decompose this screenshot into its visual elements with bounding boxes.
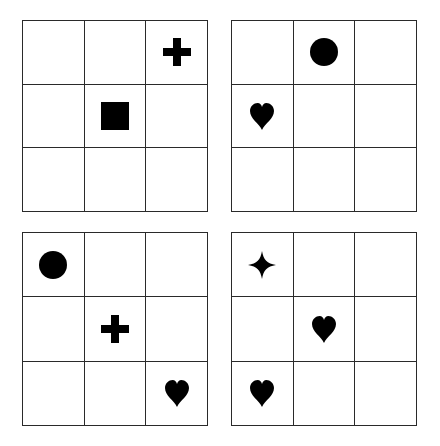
grid-cell-r1-c0 — [232, 85, 294, 149]
grid-cell-r2-c0 — [232, 148, 294, 212]
heart-icon — [247, 101, 277, 131]
grid-cell-r0-c1 — [294, 21, 356, 85]
grid-cell-r0-c0 — [23, 233, 85, 297]
grid-cell-r1-c1 — [85, 85, 147, 149]
grid-cell-r1-c1 — [85, 297, 147, 361]
plus-icon — [162, 37, 192, 67]
grid-cell-r2-c0 — [232, 362, 294, 426]
circle-icon — [38, 250, 68, 280]
grid-cell-r1-c2 — [355, 297, 417, 361]
grid-bottom-right — [231, 232, 417, 426]
grid-cell-r0-c2 — [355, 21, 417, 85]
plus-icon — [100, 314, 130, 344]
grid-cell-r0-c2 — [146, 21, 208, 85]
heart-icon — [247, 378, 277, 408]
grid-cell-r0-c2 — [355, 233, 417, 297]
grid-cell-r1-c2 — [355, 85, 417, 149]
heart-icon — [309, 314, 339, 344]
grid-cell-r1-c2 — [146, 297, 208, 361]
grid-cell-r0-c1 — [294, 233, 356, 297]
grid-cell-r1-c2 — [146, 85, 208, 149]
grid-cell-r2-c2 — [355, 148, 417, 212]
grid-cell-r1-c0 — [232, 297, 294, 361]
grid-cell-r2-c1 — [294, 362, 356, 426]
grid-top-right — [231, 20, 417, 212]
grid-cell-r2-c1 — [294, 148, 356, 212]
grid-top-left — [22, 20, 208, 212]
square-icon — [100, 101, 130, 131]
grid-cell-r2-c1 — [85, 362, 147, 426]
grid-cell-r2-c2 — [146, 362, 208, 426]
grid-cell-r0-c1 — [85, 233, 147, 297]
grid-cell-r0-c0 — [232, 21, 294, 85]
four-point-star-icon — [247, 250, 277, 280]
circle-icon — [309, 37, 339, 67]
heart-icon — [162, 378, 192, 408]
grid-cell-r1-c0 — [23, 297, 85, 361]
grid-cell-r1-c1 — [294, 297, 356, 361]
grid-cell-r0-c0 — [23, 21, 85, 85]
grid-bottom-left — [22, 232, 208, 426]
grid-cell-r2-c2 — [355, 362, 417, 426]
grid-cell-r2-c2 — [146, 148, 208, 212]
grid-cell-r2-c1 — [85, 148, 147, 212]
grid-cell-r1-c0 — [23, 85, 85, 149]
grid-cell-r2-c0 — [23, 148, 85, 212]
grid-cell-r2-c0 — [23, 362, 85, 426]
grid-cell-r0-c0 — [232, 233, 294, 297]
grid-cell-r0-c2 — [146, 233, 208, 297]
grid-cell-r0-c1 — [85, 21, 147, 85]
grid-cell-r1-c1 — [294, 85, 356, 149]
